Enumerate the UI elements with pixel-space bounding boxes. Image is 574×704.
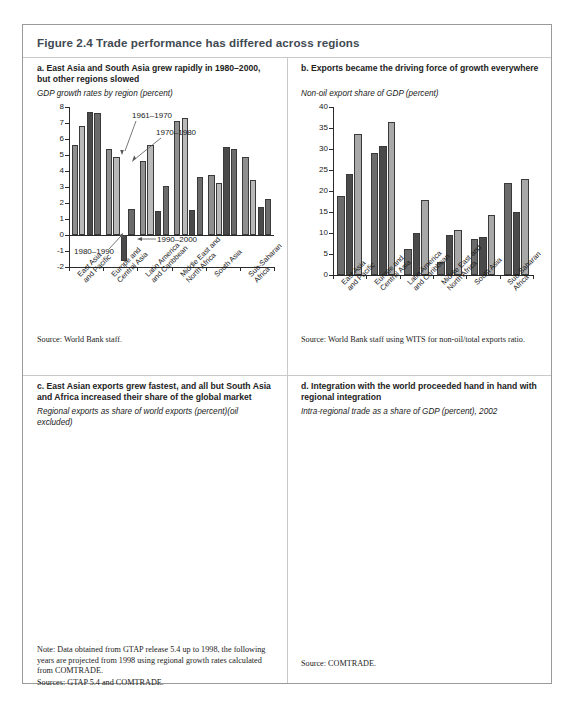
y-tick-label: -1 [39,247,64,255]
panel-a-source: Source: World Bank staff. [37,335,277,346]
panel-a: a. East Asia and South Asia grew rapidly… [35,63,283,369]
y-tick-label: 2 [39,199,64,207]
bar [371,153,379,275]
panel-d-title: d. Integration with the world proceeded … [301,381,541,403]
y-tick [65,107,69,108]
bar [106,149,112,235]
bar [354,134,362,275]
annotation-1970-1980: 1970–1980 [156,128,196,137]
figure-frame: Figure 2.4 Trade performance has differe… [22,24,552,684]
x-tick [366,275,367,279]
panel-c: c. East Asian exports grew fastest, and … [35,381,283,681]
bar [94,113,100,235]
y-tick [65,187,69,188]
bar [140,161,146,235]
y-tick-label: 35 [303,124,328,132]
panel-a-title: a. East Asia and South Asia grew rapidly… [37,63,275,85]
bar [87,112,93,235]
x-tick [274,267,275,271]
panel-c-plot [35,433,283,645]
bar [72,145,78,235]
x-tick-label: Europe andCentral Asia [110,245,150,285]
y-tick-label: 1 [39,215,64,223]
y-tick [329,128,333,129]
panel-d-subtitle: Intra-regional trade as a share of GDP (… [301,407,541,418]
y-tick [65,219,69,220]
panel-c-note: Note: Data obtained from GTAP release 5.… [37,645,275,677]
y-tick-label: -2 [39,263,64,271]
panel-a-plot: -2-1012345678East Asiaand PacificEurope … [35,103,283,323]
bar [208,175,214,235]
bar [163,186,169,235]
y-tick [329,107,333,108]
bar [223,147,229,235]
x-tick [333,275,334,279]
bar [174,121,180,235]
panel-a-subtitle: GDP growth rates by region (percent) [37,89,275,100]
bar [128,209,134,235]
bar [258,207,264,235]
figure-page: Figure 2.4 Trade performance has differe… [0,0,574,704]
figure-title: Figure 2.4 Trade performance has differe… [37,36,360,49]
y-tick [329,149,333,150]
x-tick [206,267,207,271]
y-axis [69,107,70,267]
bar [189,210,195,235]
panel-d: d. Integration with the world proceeded … [299,381,545,681]
y-tick [65,123,69,124]
y-tick-label: 3 [39,183,64,191]
y-tick [65,155,69,156]
y-tick-label: 8 [39,103,64,111]
annotation-1990-2000: 1990–2000 [157,235,197,244]
y-tick [65,251,69,252]
y-tick-label: 5 [39,151,64,159]
divider-vertical [287,57,288,683]
bar [113,157,119,235]
bar [250,180,256,235]
y-tick [65,171,69,172]
y-tick-label: 6 [39,135,64,143]
panel-c-title: c. East Asian exports grew fastest, and … [37,381,275,403]
panel-d-source: Source: COMTRADE. [301,659,539,670]
bar [231,149,237,235]
bar [346,174,354,275]
bar [216,183,222,235]
panel-d-plot [299,421,545,645]
y-axis [333,107,334,275]
x-tick [137,267,138,271]
panel-c-subtitle: Regional exports as share of world expor… [37,407,275,428]
x-tick [103,267,104,271]
bar [79,126,85,235]
x-tick [433,275,434,279]
panel-b-subtitle: Non-oil export share of GDP (percent) [301,89,541,100]
bar [197,177,203,235]
bar [379,146,387,275]
y-tick-label: 25 [303,166,328,174]
y-tick [65,203,69,204]
panel-c-sources: Sources: GTAP 5.4 and COMTRADE. [37,678,275,689]
bar [388,122,396,275]
y-tick-label: 5 [303,250,328,258]
bar [147,145,153,235]
y-tick-label: 10 [303,229,328,237]
y-tick-label: 7 [39,119,64,127]
bar [242,157,248,235]
y-tick-label: 4 [39,167,64,175]
x-tick [240,267,241,271]
annotation-1961-1970: 1961–1970 [132,111,172,120]
bar [155,211,161,235]
y-tick [329,254,333,255]
x-tick [533,275,534,279]
x-tick [69,267,70,271]
x-tick [466,275,467,279]
x-tick [172,267,173,271]
y-tick [329,212,333,213]
bar [504,183,512,275]
bar [265,199,271,235]
y-tick-label: 0 [303,271,328,279]
x-tick-label: Sub-SaharanAfrica [247,242,289,284]
panel-b: b. Exports became the driving force of g… [299,63,545,369]
y-tick-label: 30 [303,145,328,153]
panel-b-plot: 0510152025303540East Asiaand PacificEuro… [299,103,545,323]
y-tick-label: 0 [39,231,64,239]
